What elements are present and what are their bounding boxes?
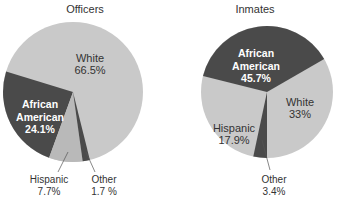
label-african-american: AfricanAmerican24.1% [12,98,68,136]
inmates-pie-chart: Inmates AfricanAmerican45.7% White33% Hi… [170,0,340,203]
label-african-american: AfricanAmerican45.7% [228,47,284,85]
label-hispanic: Hispanic17.9% [210,122,258,146]
officers-pie-chart: Officers White66.5% AfricanAmerican24.1%… [0,0,170,203]
label-hispanic: Hispanic7.7% [26,174,72,198]
label-other: Other1.7 % [84,174,124,198]
label-white: White33% [280,96,320,120]
label-other: Other3.4% [256,174,292,198]
label-white: White66.5% [60,52,120,76]
